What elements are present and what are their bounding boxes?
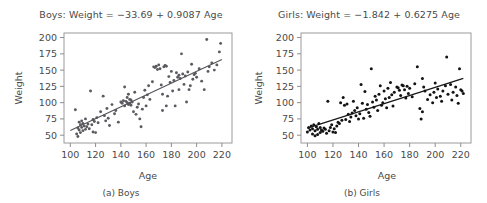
x-tick-label: 220 [213,149,231,160]
data-point [357,117,360,120]
data-point [190,63,193,66]
data-point [314,129,317,132]
data-point [454,86,457,89]
data-point [107,117,110,120]
data-point [343,104,346,107]
x-tick-label: 200 [188,149,206,160]
data-point [458,67,461,70]
data-point [383,89,386,92]
data-point [99,110,102,113]
data-point [178,88,181,91]
y-tick-label: 125 [276,81,294,92]
data-point [455,94,458,97]
data-point [113,112,116,115]
data-point [335,125,338,128]
data-point [402,84,405,87]
data-point [160,84,163,87]
x-tick-label: 220 [452,149,470,160]
data-point [461,89,464,92]
data-point [426,98,429,101]
data-point [331,130,334,133]
plot-frame [301,33,471,143]
data-point [374,95,377,98]
data-point [384,97,387,100]
data-point [191,78,194,81]
data-point [329,126,332,129]
data-point [441,89,444,92]
data-point [344,118,347,121]
data-point [140,125,143,128]
data-point [306,130,309,133]
data-point [420,117,423,120]
plot-frame [64,33,232,143]
data-point [369,115,372,118]
data-point [218,50,221,53]
data-point [213,69,216,72]
data-point [361,102,364,105]
data-point [155,65,158,68]
data-point [314,134,317,137]
data-point [219,42,222,45]
girls-scatter-plot: Girls: Weight = −1.842 + 0.6275 Age Weig… [244,0,487,203]
data-point [340,119,343,122]
y-tick-label: 150 [39,65,57,76]
chart-panel-girls: Girls: Weight = −1.842 + 0.6275 Age Weig… [244,0,487,203]
data-point [418,107,421,110]
data-point [403,88,406,91]
data-point [180,52,183,55]
data-point [92,130,95,133]
y-tick-label: 125 [39,81,57,92]
panel-caption-girls: (b) Girls [344,188,380,198]
data-point [413,82,416,85]
data-point [117,121,120,124]
x-tick-label: 100 [298,149,316,160]
data-point [308,128,311,131]
data-point [89,89,92,92]
data-point [174,104,177,107]
data-point [397,86,400,89]
data-point [330,123,333,126]
boys-scatter-plot: Boys: Weight = −33.69 + 0.9087 Age Weigh… [0,0,243,203]
data-point [166,95,169,98]
y-tick-label: 100 [276,97,294,108]
data-point [449,83,452,86]
data-point [338,122,341,125]
data-point [133,91,136,94]
data-point [85,125,88,128]
data-point [379,84,382,87]
data-point [161,109,164,112]
data-point [445,56,448,59]
data-point [360,83,363,86]
data-point [132,110,135,113]
x-tick-label: 200 [426,149,444,160]
figure-container: Boys: Weight = −33.69 + 0.9087 Age Weigh… [0,0,487,203]
y-axis-label-girls: Weight [253,71,264,104]
data-point [93,120,96,123]
data-point [388,96,391,99]
chart-panel-boys: Boys: Weight = −33.69 + 0.9087 Age Weigh… [0,0,243,203]
regression-line [307,78,463,128]
data-point [422,86,425,89]
y-tick-label: 50 [45,130,57,141]
x-tick-label: 160 [137,149,155,160]
data-point [183,83,186,86]
data-point [440,100,443,103]
data-point [171,89,174,92]
y-tick-label: 175 [276,48,294,59]
data-point [398,89,401,92]
data-point [205,38,208,41]
x-tick-label: 120 [324,149,342,160]
y-tick-label: 200 [276,32,294,43]
data-point [102,95,105,98]
data-point [121,102,124,105]
data-point [200,80,203,83]
data-point [203,88,206,91]
data-point [80,119,83,122]
data-point [328,129,331,132]
data-point [421,77,424,80]
data-point [147,84,150,87]
y-axis-label-boys: Weight [13,71,24,104]
data-point [165,104,168,107]
data-point [462,92,465,95]
data-point [78,121,81,124]
